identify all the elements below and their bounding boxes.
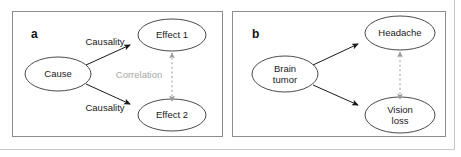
node-label-effect-1: Effect 1 xyxy=(156,30,188,41)
node-label-cause: Cause xyxy=(44,69,71,80)
node-label-headache: Headache xyxy=(378,28,421,39)
figure-canvas: a b Cause Effect 1 Effect 2 Causality Ca… xyxy=(0,0,461,157)
node-label-vision-loss: Vision loss xyxy=(387,105,413,126)
node-label-brain-tumor: Brain tumor xyxy=(273,64,297,85)
panel-a-letter: a xyxy=(31,28,38,40)
edge-label-causality-top: Causality xyxy=(85,36,124,47)
panel-b-letter: b xyxy=(252,28,259,40)
edge-label-correlation: Correlation xyxy=(116,69,162,80)
node-label-effect-2: Effect 2 xyxy=(156,110,188,121)
edge-label-causality-bottom: Causality xyxy=(85,102,124,113)
